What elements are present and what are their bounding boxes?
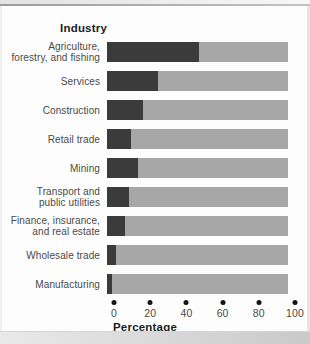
bar-segment-light — [143, 100, 288, 120]
category-label: Retail trade — [0, 134, 107, 145]
bar-segment-light — [158, 71, 288, 91]
stacked-bar — [107, 245, 288, 265]
category-label: Finance, insurance,and real estate — [0, 215, 107, 237]
bar-segment-light — [125, 216, 288, 236]
stacked-bar-chart: Industry Agriculture,forestry, and fishi… — [0, 8, 310, 333]
bar-segment-dark — [107, 100, 143, 120]
bar-segment-dark — [107, 158, 138, 178]
category-label: Manufacturing — [0, 279, 107, 290]
category-label: Mining — [0, 163, 107, 174]
stacked-bar — [107, 100, 288, 120]
axis-tick-label: 40 — [180, 307, 192, 319]
category-label: Transport andpublic utilities — [0, 186, 107, 208]
page-top-edge-line — [0, 4, 310, 6]
bar-segment-dark — [107, 245, 116, 265]
axis-tick-dot — [293, 300, 298, 305]
axis-tick-dot — [256, 300, 261, 305]
chart-title: Industry — [0, 8, 107, 34]
chart-row: Services — [0, 71, 310, 91]
chart-row: Finance, insurance,and real estate — [0, 216, 310, 236]
stacked-bar — [107, 158, 288, 178]
bar-segment-dark — [107, 42, 199, 62]
stacked-bar — [107, 187, 288, 207]
chart-row: Construction — [0, 100, 310, 120]
bar-segment-dark — [107, 71, 158, 91]
chart-row: Wholesale trade — [0, 245, 310, 265]
axis-tick-dot — [112, 300, 117, 305]
bar-segment-light — [138, 158, 288, 178]
scanned-chart-page: Industry Agriculture,forestry, and fishi… — [0, 0, 310, 344]
chart-row: Manufacturing — [0, 274, 310, 294]
bar-segment-dark — [107, 216, 125, 236]
axis-tick-dot — [220, 300, 225, 305]
axis-tick-label: 100 — [286, 307, 304, 319]
bar-segment-light — [112, 274, 288, 294]
category-label: Services — [0, 76, 107, 87]
axis-tick-label: 60 — [217, 307, 229, 319]
axis-tick-dot — [148, 300, 153, 305]
category-label: Wholesale trade — [0, 250, 107, 261]
axis-tick-dot — [184, 300, 189, 305]
stacked-bar — [107, 71, 288, 91]
axis-tick-label: 20 — [144, 307, 156, 319]
stacked-bar — [107, 42, 288, 62]
bar-segment-light — [116, 245, 288, 265]
page-bottom-edge — [0, 331, 310, 344]
stacked-bar — [107, 274, 288, 294]
stacked-bar — [107, 129, 288, 149]
axis-tick-label: 80 — [253, 307, 265, 319]
chart-row: Retail trade — [0, 129, 310, 149]
bar-segment-light — [129, 187, 288, 207]
axis-tick-label: 0 — [111, 307, 117, 319]
stacked-bar — [107, 216, 288, 236]
chart-rows: Agriculture,forestry, and fishingService… — [0, 42, 310, 294]
chart-row: Mining — [0, 158, 310, 178]
x-axis: 020406080100 — [114, 300, 295, 320]
category-label: Construction — [0, 105, 107, 116]
chart-row: Transport andpublic utilities — [0, 187, 310, 207]
bar-segment-light — [199, 42, 288, 62]
bar-segment-dark — [107, 129, 131, 149]
chart-row: Agriculture,forestry, and fishing — [0, 42, 310, 62]
bar-segment-dark — [107, 187, 129, 207]
bar-segment-light — [131, 129, 288, 149]
category-label: Agriculture,forestry, and fishing — [0, 41, 107, 63]
